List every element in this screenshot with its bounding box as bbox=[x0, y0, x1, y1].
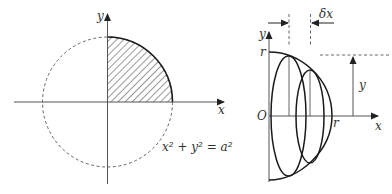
hatched-quarter-disc bbox=[108, 37, 173, 102]
radius-label-right: r bbox=[333, 116, 340, 130]
height-label: y bbox=[358, 78, 366, 92]
x-axis-label-right: x bbox=[375, 119, 382, 133]
origin-label: O bbox=[257, 109, 267, 123]
radius-label-top: r bbox=[260, 45, 267, 59]
y-axis-label-right: y bbox=[258, 27, 266, 41]
delta-x-label: δx bbox=[319, 7, 333, 21]
right-figure: x y r O r x δx y bbox=[200, 7, 391, 182]
figure-svg: y x² + y² = a² x y r O r x δx bbox=[0, 0, 392, 194]
equation-label: x² + y² = a² bbox=[162, 140, 233, 154]
left-figure: y x² + y² = a² bbox=[14, 9, 233, 184]
x-axis-label-left: x bbox=[218, 103, 225, 117]
diagram-canvas: y x² + y² = a² x y r O r x δx bbox=[0, 0, 392, 194]
y-axis-label-left: y bbox=[96, 9, 104, 23]
